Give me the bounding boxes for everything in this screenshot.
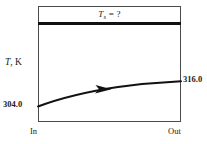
x-axis-tick-in: In [30, 126, 37, 136]
y-axis-unit: , K [10, 57, 22, 67]
surface-temperature-label: Ts = ? [38, 9, 181, 22]
surface-temperature-line [38, 22, 181, 25]
y-axis-label: T, K [5, 57, 22, 68]
temperature-profile-figure: Ts = ? T, K 304.0 316.0 In Out [0, 0, 207, 144]
x-axis-tick-out: Out [168, 126, 181, 136]
outlet-temperature-value: 316.0 [183, 74, 202, 84]
ts-equals-unknown: = ? [106, 9, 120, 19]
inlet-temperature-value: 304.0 [3, 99, 22, 109]
